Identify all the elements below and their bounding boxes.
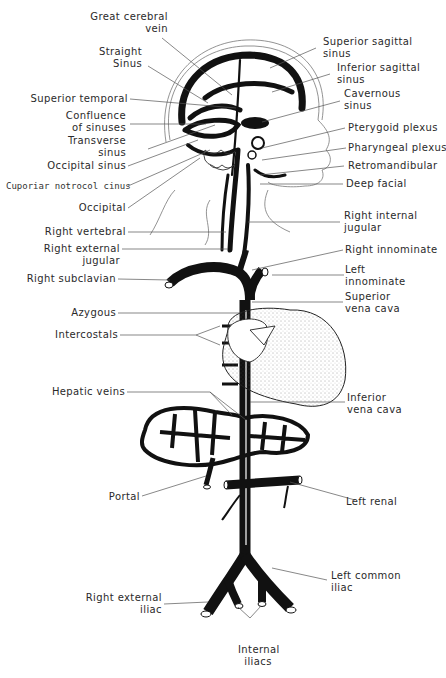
label-line: jugular (20, 255, 120, 267)
label-superior-sagittal-sinus: Superior sagittal sinus (323, 36, 413, 60)
cavernous-region (241, 117, 269, 159)
label-line: sinus (50, 147, 126, 159)
label-internal-iliacs: Internal iliacs (238, 644, 278, 668)
label-line: Great cerebral (78, 11, 168, 23)
label-line: Right external (20, 243, 120, 255)
label-line: Left renal (346, 496, 397, 508)
label-line: Portal (90, 491, 140, 503)
label-transverse-sinus: Transverse sinus (50, 135, 126, 159)
label-line: Superior (345, 291, 400, 303)
label-straight-sinus: Straight Sinus (78, 46, 142, 70)
label-hepatic-veins: Hepatic veins (30, 386, 125, 398)
label-line: Pterygoid plexus (348, 122, 438, 134)
label-line: Azygous (40, 307, 116, 319)
innominate-arch (170, 250, 262, 300)
label-right-external-jugular: Right external jugular (20, 243, 120, 267)
label-line: Superior temporal (20, 93, 128, 105)
label-right-external-iliac: Right external iliac (60, 592, 162, 616)
label-superior-petrosal-sinus: Cuporiar notrocol cinus (6, 180, 126, 192)
label-line: Intercostals (30, 329, 118, 341)
label-line: Occipital sinus (20, 160, 126, 172)
label-line: Deep facial (346, 178, 407, 190)
label-line: sinus (344, 100, 401, 112)
label-line: Straight (78, 46, 142, 58)
label-line: Inferior sagittal (337, 62, 420, 74)
label-line: Cavernous (344, 88, 401, 100)
label-line: Right innominate (345, 244, 438, 256)
label-line: Hepatic veins (30, 386, 125, 398)
label-line: Transverse (50, 135, 126, 147)
label-line: iliac (331, 582, 401, 594)
label-occipital-sinus: Occipital sinus (20, 160, 126, 172)
label-right-internal-jugular: Right internal jugular (344, 210, 417, 234)
label-azygous: Azygous (40, 307, 116, 319)
right-external-iliac-end (201, 611, 211, 617)
label-line: jugular (344, 222, 417, 234)
label-line: vein (78, 23, 168, 35)
label-line: innominate (345, 276, 406, 288)
label-line: Superior sagittal (323, 36, 413, 48)
label-right-innominate: Right innominate (345, 244, 438, 256)
subclavian-end (165, 282, 173, 288)
label-inferior-sagittal-sinus: Inferior sagittal sinus (337, 62, 420, 86)
label-line: of sinuses (50, 122, 126, 134)
label-pterygoid-plexus: Pterygoid plexus (348, 122, 438, 134)
label-great-cerebral-vein: Great cerebral vein (78, 11, 168, 35)
label-left-common-iliac: Left common iliac (331, 570, 401, 594)
label-line: Confluence (50, 110, 126, 122)
label-intercostals: Intercostals (30, 329, 118, 341)
label-line: vena cava (347, 404, 402, 416)
venous-system-diagram: Great cerebral vein Straight Sinus Super… (0, 0, 446, 678)
label-cavernous-sinus: Cavernous sinus (344, 88, 401, 112)
internal-iliac-end-l (258, 602, 266, 607)
label-line: Occipital (40, 202, 126, 214)
label-deep-facial: Deep facial (346, 178, 407, 190)
label-portal: Portal (90, 491, 140, 503)
label-line: Inferior (347, 392, 402, 404)
label-right-subclavian: Right subclavian (6, 273, 116, 285)
label-line: Left (345, 264, 406, 276)
label-left-renal: Left renal (346, 496, 397, 508)
label-line: Sinus (78, 58, 142, 70)
label-superior-temporal: Superior temporal (20, 93, 128, 105)
label-line: Left common (331, 570, 401, 582)
label-line: sinus (323, 48, 413, 60)
label-line: Right internal (344, 210, 417, 222)
label-occipital: Occipital (40, 202, 126, 214)
hepatic-portal-network (142, 408, 308, 485)
label-inferior-vena-cava: Inferior vena cava (347, 392, 402, 416)
label-line: iliacs (238, 656, 278, 668)
label-line: sinus (337, 74, 420, 86)
portal-end (204, 485, 211, 489)
label-superior-vena-cava: Superior vena cava (345, 291, 400, 315)
innominate-end (262, 268, 268, 276)
left-common-iliac-end (286, 607, 296, 613)
label-line: Right vertebral (20, 226, 126, 238)
renal-veins (226, 480, 300, 485)
label-line: Cuporiar notrocol cinus (6, 180, 126, 192)
label-line: Right external (60, 592, 162, 604)
label-left-innominate: Left innominate (345, 264, 406, 288)
label-confluence-of-sinuses: Confluence of sinuses (50, 110, 126, 134)
label-line: Pharyngeal plexus (348, 142, 446, 154)
label-pharyngeal-plexus: Pharyngeal plexus (348, 142, 446, 154)
label-line: Retromandibular (348, 160, 438, 172)
label-line: Internal (238, 644, 278, 656)
label-retromandibular: Retromandibular (348, 160, 438, 172)
label-line: vena cava (345, 303, 400, 315)
label-right-vertebral: Right vertebral (20, 226, 126, 238)
iliac-veins (208, 555, 290, 612)
neck-veins (222, 150, 285, 255)
label-line: Right subclavian (6, 273, 116, 285)
label-line: iliac (60, 604, 162, 616)
